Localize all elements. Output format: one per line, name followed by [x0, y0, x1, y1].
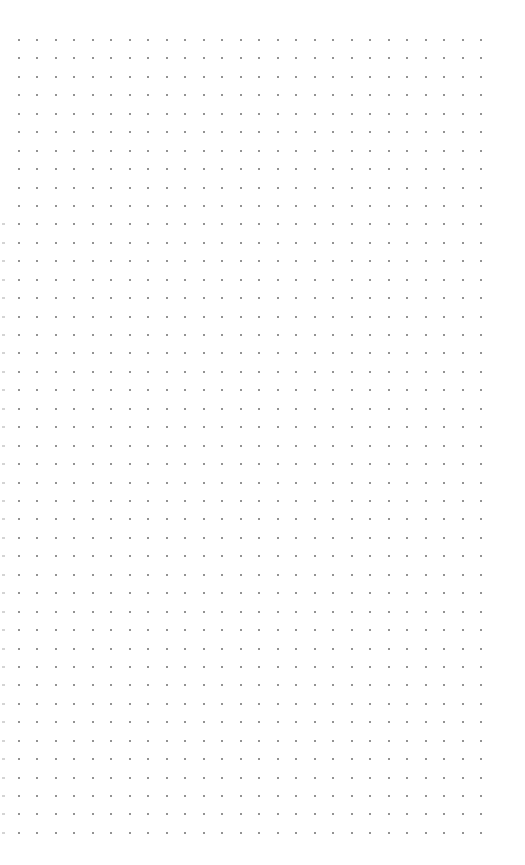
grid-dot — [110, 316, 112, 318]
grid-dot — [55, 684, 57, 686]
grid-dot — [443, 611, 445, 613]
grid-dot — [221, 389, 223, 391]
grid-dot — [18, 463, 20, 465]
grid-dot — [388, 518, 390, 520]
grid-dot — [147, 260, 149, 262]
grid-dot — [129, 832, 131, 834]
grid-dot — [295, 758, 297, 760]
grid-dot — [166, 131, 168, 133]
grid-dot — [314, 113, 316, 115]
grid-dot — [351, 371, 353, 373]
grid-dot — [110, 537, 112, 539]
grid-dot — [184, 611, 186, 613]
grid-dot — [369, 316, 371, 318]
grid-dot — [203, 334, 205, 336]
grid-dot — [462, 260, 464, 262]
row-edge-mark — [2, 408, 5, 410]
grid-dot — [129, 260, 131, 262]
grid-dot — [240, 223, 242, 225]
grid-dot — [129, 408, 131, 410]
grid-dot — [55, 721, 57, 723]
grid-dot — [203, 666, 205, 668]
grid-dot — [369, 666, 371, 668]
grid-dot — [73, 316, 75, 318]
grid-dot — [147, 500, 149, 502]
grid-dot — [388, 94, 390, 96]
grid-dot — [406, 721, 408, 723]
grid-dot — [277, 352, 279, 354]
grid-dot — [221, 518, 223, 520]
grid-dot — [480, 150, 482, 152]
grid-dot — [36, 795, 38, 797]
grid-dot — [462, 666, 464, 668]
grid-dot — [36, 57, 38, 59]
grid-dot — [73, 500, 75, 502]
grid-dot — [443, 94, 445, 96]
grid-dot — [110, 445, 112, 447]
grid-dot — [295, 150, 297, 152]
grid-dot — [462, 371, 464, 373]
grid-dot — [240, 316, 242, 318]
grid-dot — [295, 629, 297, 631]
grid-dot — [73, 629, 75, 631]
grid-dot — [332, 758, 334, 760]
grid-dot — [166, 426, 168, 428]
grid-dot — [351, 721, 353, 723]
dot-grid-page — [0, 0, 525, 865]
dot-grid — [0, 0, 525, 865]
grid-dot — [129, 518, 131, 520]
grid-dot — [388, 389, 390, 391]
grid-dot — [314, 57, 316, 59]
grid-dot — [221, 131, 223, 133]
grid-dot — [332, 334, 334, 336]
grid-dot — [277, 131, 279, 133]
grid-dot — [73, 223, 75, 225]
row-edge-mark — [2, 740, 5, 742]
grid-dot — [129, 113, 131, 115]
grid-dot — [258, 648, 260, 650]
grid-dot — [462, 426, 464, 428]
grid-dot — [388, 223, 390, 225]
grid-dot — [406, 555, 408, 557]
grid-dot — [443, 334, 445, 336]
grid-dot — [221, 279, 223, 281]
grid-dot — [110, 242, 112, 244]
grid-dot — [462, 334, 464, 336]
grid-dot — [314, 740, 316, 742]
grid-dot — [258, 777, 260, 779]
grid-dot — [258, 813, 260, 815]
grid-dot — [92, 666, 94, 668]
grid-dot — [480, 611, 482, 613]
grid-dot — [55, 39, 57, 41]
grid-dot — [443, 352, 445, 354]
grid-dot — [147, 168, 149, 170]
grid-dot — [18, 334, 20, 336]
grid-dot — [314, 574, 316, 576]
grid-dot — [480, 629, 482, 631]
grid-dot — [36, 721, 38, 723]
grid-dot — [406, 500, 408, 502]
grid-dot — [55, 408, 57, 410]
grid-dot — [258, 260, 260, 262]
grid-dot — [332, 721, 334, 723]
grid-dot — [240, 482, 242, 484]
grid-dot — [221, 537, 223, 539]
grid-dot — [18, 648, 20, 650]
grid-dot — [166, 666, 168, 668]
grid-dot — [369, 795, 371, 797]
grid-dot — [221, 76, 223, 78]
grid-dot — [73, 150, 75, 152]
grid-dot — [462, 795, 464, 797]
grid-dot — [406, 666, 408, 668]
grid-dot — [166, 740, 168, 742]
grid-dot — [73, 205, 75, 207]
grid-dot — [110, 76, 112, 78]
grid-dot — [129, 352, 131, 354]
grid-dot — [480, 39, 482, 41]
grid-dot — [369, 813, 371, 815]
grid-dot — [110, 352, 112, 354]
grid-dot — [55, 260, 57, 262]
grid-dot — [332, 408, 334, 410]
grid-dot — [480, 832, 482, 834]
grid-dot — [147, 76, 149, 78]
